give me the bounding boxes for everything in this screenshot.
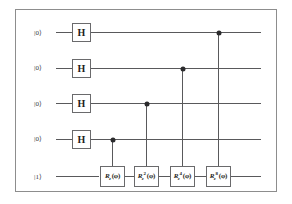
gate-hadamard-q3-label: H <box>78 135 86 145</box>
wire-q2-seg-out <box>86 103 261 104</box>
qubit-label-0: |0⟩ <box>34 29 42 37</box>
wire-q4-seg-3 <box>195 176 206 177</box>
gate-crz-3[interactable]: Rz4(φ) <box>170 166 195 187</box>
wire-q0-seg-out <box>86 32 261 33</box>
gate-crz-1-subscript: z <box>109 176 111 181</box>
wire-q1-seg-in <box>56 68 72 69</box>
gate-crz-1-label: Rz(φ) <box>105 173 120 180</box>
qubit-label-4: |1⟩ <box>34 173 42 181</box>
control-dot-crz-3[interactable] <box>180 66 185 71</box>
gate-hadamard-q0-label: H <box>78 28 86 38</box>
control-line-crz-4 <box>218 32 219 166</box>
gate-crz-3-label: Rz4(φ) <box>174 173 191 180</box>
gate-crz-4-label: Rz8(φ) <box>210 173 227 180</box>
control-dot-crz-2[interactable] <box>144 101 149 106</box>
qubit-label-3: |0⟩ <box>34 135 42 143</box>
gate-crz-2-superscript: 2 <box>143 171 145 176</box>
control-line-crz-2 <box>146 103 147 166</box>
gate-crz-2-argument: (φ) <box>147 173 155 180</box>
gate-hadamard-q2-label: H <box>78 99 86 109</box>
gate-crz-4-subscript: z <box>214 176 216 181</box>
gate-crz-1-argument: (φ) <box>112 173 120 180</box>
gate-crz-2-label: Rz2(φ) <box>138 173 155 180</box>
gate-crz-4-superscript: 8 <box>215 171 217 176</box>
gate-crz-1[interactable]: Rz(φ) <box>100 166 125 187</box>
gate-hadamard-q3[interactable]: H <box>72 130 91 149</box>
gate-hadamard-q0[interactable]: H <box>72 23 91 42</box>
control-dot-crz-4[interactable] <box>216 30 221 35</box>
wire-q4-seg-0 <box>56 176 99 177</box>
figure-root: |0⟩ |0⟩ |0⟩ |0⟩ |1⟩ <box>0 0 292 204</box>
wire-q3-seg-in <box>56 139 72 140</box>
qubit-label-2: |0⟩ <box>34 100 42 108</box>
wire-q4-seg-2 <box>159 176 170 177</box>
circuit-frame: |0⟩ |0⟩ |0⟩ |0⟩ |1⟩ <box>15 9 277 192</box>
wire-q4-seg-4 <box>231 176 261 177</box>
gate-crz-3-subscript: z <box>178 176 180 181</box>
wire-q4-seg-1 <box>125 176 134 177</box>
gate-hadamard-q1[interactable]: H <box>72 59 91 78</box>
control-line-crz-1 <box>112 139 113 166</box>
control-dot-crz-1[interactable] <box>110 137 115 142</box>
control-line-crz-3 <box>182 68 183 166</box>
gate-crz-3-superscript: 4 <box>179 171 181 176</box>
qubit-label-1: |0⟩ <box>34 64 42 72</box>
gate-crz-4[interactable]: Rz8(φ) <box>206 166 231 187</box>
wire-q1-seg-out <box>86 68 261 69</box>
gate-crz-3-argument: (φ) <box>183 173 191 180</box>
gate-crz-2-subscript: z <box>142 176 144 181</box>
gate-hadamard-q2[interactable]: H <box>72 94 91 113</box>
gate-crz-4-argument: (φ) <box>219 173 227 180</box>
wire-q0-seg-in <box>56 32 72 33</box>
gate-hadamard-q1-label: H <box>78 64 86 74</box>
wire-q2-seg-in <box>56 103 72 104</box>
gate-crz-2[interactable]: Rz2(φ) <box>134 166 159 187</box>
